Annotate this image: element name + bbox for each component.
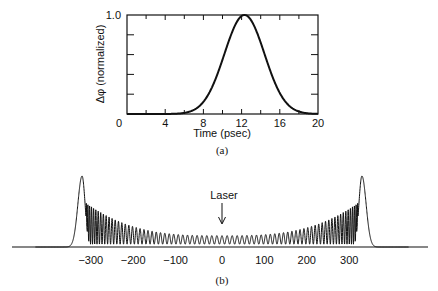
- panel-b-x-tick-label: 200: [298, 254, 316, 266]
- y-tick-label-max: 1.0: [106, 9, 121, 21]
- laser-annotation: Laser: [210, 189, 238, 201]
- panel-a-ticks: [127, 15, 318, 114]
- panel-a: 048121620 1.0 Time (psec) Δφ (normalized…: [94, 9, 324, 157]
- panel-a-caption: (a): [216, 144, 229, 157]
- panel-b-x-tick-labels: −300−200−1000100200300: [78, 254, 358, 266]
- panel-a-curve: [127, 15, 318, 114]
- panel-a-x-axis-label: Time (psec): [193, 127, 251, 139]
- panel-b-x-tick-label: −100: [163, 254, 188, 266]
- panel-b-x-tick-label: 300: [340, 254, 358, 266]
- panel-b-x-tick-label: 100: [255, 254, 273, 266]
- panel-a-y-axis-label: Δφ (normalized): [94, 25, 106, 104]
- panel-a-x-tick-label: 4: [162, 117, 168, 129]
- figure: 048121620 1.0 Time (psec) Δφ (normalized…: [0, 0, 438, 291]
- panel-b-x-tick-label: −300: [78, 254, 103, 266]
- panel-b-x-tick-label: 0: [219, 254, 225, 266]
- panel-b-x-tick-label: −200: [121, 254, 146, 266]
- panel-b-caption: (b): [216, 274, 229, 287]
- panel-a-x-tick-label: 0: [116, 117, 122, 129]
- panel-a-frame: [127, 15, 318, 114]
- panel-b: −300−200−1000100200300 Laser (b): [12, 176, 428, 287]
- laser-arrow-icon: [219, 203, 226, 224]
- panel-a-x-tick-label: 20: [312, 117, 324, 129]
- panel-a-x-tick-label: 16: [274, 117, 286, 129]
